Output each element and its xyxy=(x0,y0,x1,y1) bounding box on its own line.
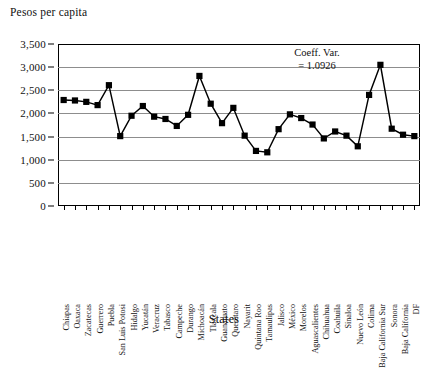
data-point-marker xyxy=(128,113,134,119)
data-point-marker xyxy=(366,92,372,98)
y-axis-tick-label: 1,000 xyxy=(20,154,46,165)
x-axis-tick-mark xyxy=(324,206,325,210)
y-axis-tick-label: 3,000 xyxy=(20,62,46,73)
data-point-marker xyxy=(151,114,157,120)
annotation-line-2: = 1.0926 xyxy=(262,59,372,72)
x-axis-tick-mark xyxy=(346,206,347,210)
x-axis-tick-mark xyxy=(86,206,87,210)
y-axis-title: Pesos per capita xyxy=(10,6,87,18)
x-axis-tick-mark xyxy=(177,206,178,210)
data-point-marker xyxy=(275,126,281,132)
data-point-marker xyxy=(83,99,89,105)
y-axis-tick-mark xyxy=(48,67,54,68)
y-axis-tick-label: 1,500 xyxy=(20,131,46,142)
data-point-marker xyxy=(162,116,168,122)
y-axis-tick-mark xyxy=(48,182,54,183)
data-point-marker xyxy=(287,111,293,117)
y-axis-labels: 05001,0001,5002,0002,5003,0003,500 xyxy=(0,38,54,212)
x-axis-tick-mark xyxy=(199,206,200,210)
x-axis-tick-mark xyxy=(290,206,291,210)
y-axis-tick-label: 2,500 xyxy=(20,85,46,96)
data-point-marker xyxy=(264,149,270,155)
x-axis-tick-mark xyxy=(380,206,381,210)
y-axis-tick-label: 2,000 xyxy=(20,108,46,119)
x-axis-tick-mark xyxy=(245,206,246,210)
data-point-marker xyxy=(94,102,100,108)
data-point-marker xyxy=(140,103,146,109)
data-point-marker xyxy=(298,115,304,121)
data-point-marker xyxy=(72,97,78,103)
x-axis-tick-mark xyxy=(143,206,144,210)
data-point-marker xyxy=(400,132,406,138)
y-axis-tick-mark xyxy=(48,90,54,91)
x-axis-tick-mark xyxy=(313,206,314,210)
x-axis-tick-mark xyxy=(301,206,302,210)
data-point-marker xyxy=(230,105,236,111)
data-point-marker xyxy=(411,133,417,139)
y-axis-tick-mark xyxy=(48,159,54,160)
data-point-marker xyxy=(106,82,112,88)
series-polyline xyxy=(64,65,415,152)
x-axis-tick-mark xyxy=(335,206,336,210)
x-axis-tick-mark xyxy=(233,206,234,210)
x-axis-tick-mark xyxy=(279,206,280,210)
y-axis-tick-label: 3,500 xyxy=(20,39,46,50)
y-axis-tick-mark xyxy=(48,113,54,114)
x-axis-tick-mark xyxy=(64,206,65,210)
x-axis-tick-mark xyxy=(98,206,99,210)
data-point-marker xyxy=(208,101,214,107)
x-axis-tick-mark xyxy=(403,206,404,210)
data-point-marker xyxy=(61,97,67,103)
y-axis-tick-mark xyxy=(48,136,54,137)
y-axis-tick-mark xyxy=(48,44,54,45)
data-point-marker xyxy=(343,133,349,139)
data-point-marker xyxy=(377,62,383,68)
data-point-marker xyxy=(117,133,123,139)
x-axis-ticks xyxy=(58,206,420,211)
data-point-marker xyxy=(389,126,395,132)
x-axis-tick-mark xyxy=(154,206,155,210)
annotation-line-1: Coeff. Var. xyxy=(262,46,372,59)
x-axis-tick-mark xyxy=(75,206,76,210)
x-axis-tick-mark xyxy=(188,206,189,210)
coefficient-of-variation-annotation: Coeff. Var. = 1.0926 xyxy=(262,46,372,72)
x-axis-tick-mark xyxy=(392,206,393,210)
x-axis-tick-mark xyxy=(414,206,415,210)
data-point-marker xyxy=(242,133,248,139)
data-point-marker xyxy=(309,121,315,127)
x-axis-tick-mark xyxy=(267,206,268,210)
x-axis-tick-mark xyxy=(165,206,166,210)
x-axis-tick-mark xyxy=(369,206,370,210)
x-axis-tick-mark xyxy=(256,206,257,210)
x-axis-tick-mark xyxy=(358,206,359,210)
data-point-marker xyxy=(355,143,361,149)
x-axis-title: States xyxy=(0,312,448,327)
y-axis-tick-label: 500 xyxy=(29,177,46,188)
data-point-marker xyxy=(253,148,259,154)
y-axis-tick-label: 0 xyxy=(40,201,46,212)
data-point-marker xyxy=(332,128,338,134)
x-axis-tick-mark xyxy=(109,206,110,210)
y-axis-tick-mark xyxy=(48,206,54,207)
x-axis-tick-mark xyxy=(120,206,121,210)
x-axis-tick-mark xyxy=(222,206,223,210)
data-point-marker xyxy=(219,120,225,126)
data-point-marker xyxy=(174,123,180,129)
x-axis-tick-mark xyxy=(211,206,212,210)
x-axis-tick-mark xyxy=(132,206,133,210)
x-axis-labels: ChiapasOaxacaZacatecasGuerreroPueblaSan … xyxy=(58,212,420,308)
data-point-marker xyxy=(196,73,202,79)
data-point-marker xyxy=(321,135,327,141)
data-point-marker xyxy=(185,112,191,118)
